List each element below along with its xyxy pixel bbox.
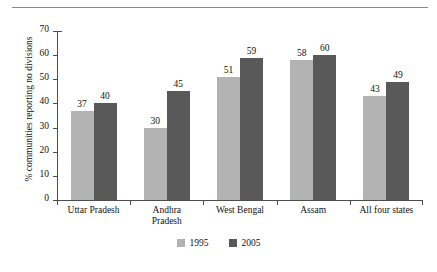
x-category-line: Uttar Pradesh: [57, 205, 130, 216]
chart-page: between 1995 and 2005 % communities repo…: [0, 0, 437, 272]
y-tick-40: 40: [53, 103, 58, 104]
y-axis-line: [57, 31, 58, 200]
bar-value-label: 59: [247, 46, 257, 56]
y-tick-20: 20: [53, 152, 58, 153]
bar-1995-west-bengal[interactable]: 51: [217, 77, 240, 200]
bar-group: 5159: [217, 31, 263, 200]
bar-value-label: 45: [174, 79, 184, 89]
bar-1995-assam[interactable]: 58: [290, 60, 313, 200]
bar-value-label: 60: [320, 43, 330, 53]
bar-2005-all-four-states[interactable]: 49: [386, 82, 409, 200]
x-category-label: Uttar Pradesh: [57, 205, 130, 216]
bar-group: 5860: [290, 31, 336, 200]
bar-chart: % communities reporting no divisions 010…: [0, 12, 437, 272]
y-tick-label-0: 0: [44, 193, 49, 203]
y-tick-0: 0: [53, 200, 58, 201]
x-category-label: Assam: [277, 205, 350, 216]
y-tick-60: 60: [53, 55, 58, 56]
bar-value-label: 37: [77, 99, 87, 109]
bar-group: 3045: [144, 31, 190, 200]
y-tick-10: 10: [53, 176, 58, 177]
bar-value-label: 51: [224, 65, 234, 75]
legend-label-2005: 2005: [242, 238, 261, 248]
x-category-line: West Bengal: [203, 205, 276, 216]
legend-swatch-1995: [177, 239, 185, 247]
bar-value-label: 43: [370, 84, 380, 94]
x-category-line: Assam: [277, 205, 350, 216]
legend-swatch-2005: [229, 239, 237, 247]
bar-group: 3740: [71, 31, 117, 200]
x-category-line: Pradesh: [130, 216, 203, 227]
figure-caption: between 1995 and 2005: [14, 0, 314, 3]
plot-area: 010203040506070 37403045515958604349 Utt…: [57, 31, 423, 200]
y-tick-label-30: 30: [40, 121, 50, 131]
y-tick-label-20: 20: [40, 145, 50, 155]
x-category-label: AndhraPradesh: [130, 205, 203, 227]
bar-value-label: 40: [100, 91, 110, 101]
x-category-label: West Bengal: [203, 205, 276, 216]
x-category-line: Andhra: [130, 205, 203, 216]
y-tick-30: 30: [53, 128, 58, 129]
bar-value-label: 58: [297, 48, 307, 58]
y-axis-title: % communities reporting no divisions: [24, 19, 34, 199]
y-tick-label-10: 10: [40, 169, 50, 179]
chart-legend: 19952005: [0, 238, 437, 248]
bar-value-label: 30: [151, 116, 161, 126]
y-tick-label-70: 70: [40, 24, 50, 34]
bar-2005-assam[interactable]: 60: [313, 55, 336, 200]
y-tick-label-40: 40: [40, 96, 50, 106]
legend-item-1995[interactable]: 1995: [177, 238, 209, 248]
x-category-line: All four states: [350, 205, 423, 216]
bar-value-label: 49: [393, 70, 403, 80]
bar-1995-all-four-states[interactable]: 43: [363, 96, 386, 200]
bar-1995-uttar-pradesh[interactable]: 37: [71, 111, 94, 200]
y-tick-70: 70: [53, 31, 58, 32]
bar-group: 4349: [363, 31, 409, 200]
bar-2005-uttar-pradesh[interactable]: 40: [94, 103, 117, 200]
bar-1995-andhra-pradesh[interactable]: 30: [144, 128, 167, 200]
header-divider: [12, 7, 428, 8]
y-tick-50: 50: [53, 79, 58, 80]
bar-2005-andhra-pradesh[interactable]: 45: [167, 91, 190, 200]
y-tick-label-60: 60: [40, 48, 50, 58]
y-tick-label-50: 50: [40, 72, 50, 82]
legend-item-2005[interactable]: 2005: [229, 238, 261, 248]
bar-2005-west-bengal[interactable]: 59: [240, 58, 263, 200]
legend-label-1995: 1995: [190, 238, 209, 248]
x-category-label: All four states: [350, 205, 423, 216]
x-axis-line: [57, 200, 423, 201]
